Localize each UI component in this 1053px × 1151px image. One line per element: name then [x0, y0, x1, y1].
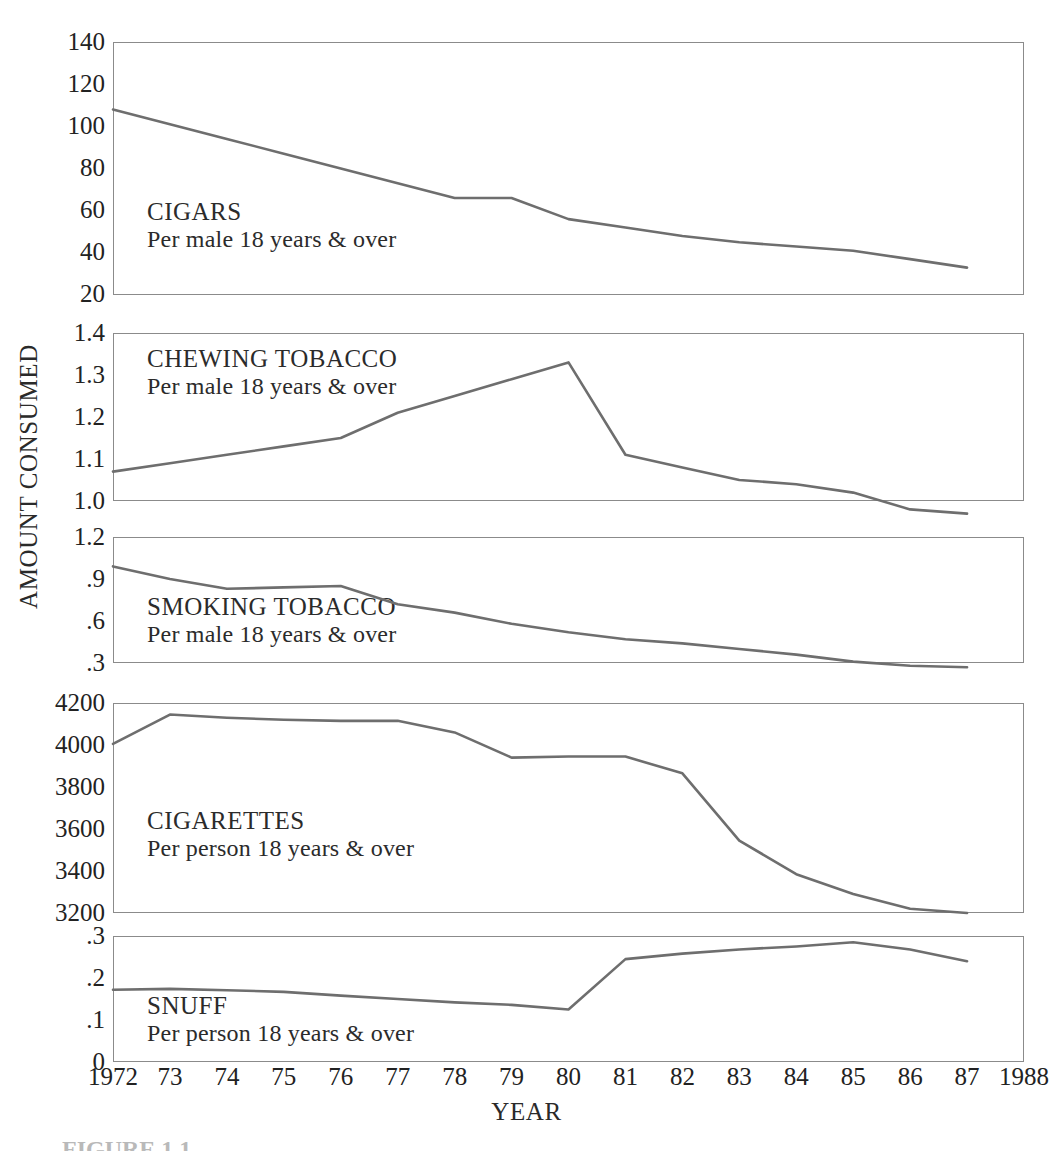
- y-axis-ticks-cigars: 140 120 100 80 60 40 20: [9, 42, 105, 295]
- x-tick: 83: [727, 1063, 752, 1091]
- series-line-smoking-tobacco: [113, 537, 1024, 663]
- y-tick: 1.0: [74, 488, 105, 513]
- x-tick: 1988: [999, 1063, 1049, 1091]
- figure-caption: FIGURE 1.1: [62, 1136, 1022, 1151]
- y-axis-ticks-smoking-tobacco: 1.2 .9 .6 .3: [9, 537, 105, 663]
- y-tick: 1.2: [74, 524, 105, 549]
- series-line-cigarettes: [113, 703, 1024, 913]
- x-tick: 86: [898, 1063, 923, 1091]
- y-tick: .3: [86, 923, 105, 948]
- x-tick: 77: [385, 1063, 410, 1091]
- y-axis-ticks-cigarettes: 4200 4000 3800 3600 3400 3200: [9, 703, 105, 913]
- y-tick: .6: [86, 608, 105, 633]
- x-tick: 78: [442, 1063, 467, 1091]
- panel-chewing-tobacco: 1.4 1.3 1.2 1.1 1.0 CHEWING TOBACCO Per …: [113, 333, 1024, 501]
- y-axis-ticks-snuff: .3 .2 .1 0: [9, 936, 105, 1062]
- x-tick: 84: [784, 1063, 809, 1091]
- panel-smoking-tobacco: 1.2 .9 .6 .3 SMOKING TOBACCO Per male 18…: [113, 537, 1024, 663]
- x-axis-title: YEAR: [0, 1098, 1053, 1126]
- y-tick: 80: [80, 155, 105, 180]
- series-line-chewing-tobacco: [113, 333, 1024, 501]
- y-tick: 120: [68, 71, 106, 96]
- y-tick: .2: [86, 965, 105, 990]
- y-tick: 40: [80, 239, 105, 264]
- x-tick: 1972: [88, 1063, 138, 1091]
- y-axis-ticks-chewing-tobacco: 1.4 1.3 1.2 1.1 1.0: [9, 333, 105, 501]
- y-tick: 3600: [55, 816, 105, 841]
- x-tick: 87: [955, 1063, 980, 1091]
- x-tick: 82: [670, 1063, 695, 1091]
- x-tick: 76: [328, 1063, 353, 1091]
- y-tick: .1: [86, 1007, 105, 1032]
- y-tick: .3: [86, 650, 105, 675]
- panel-cigarettes: 4200 4000 3800 3600 3400 3200 CIGARETTES…: [113, 703, 1024, 913]
- x-tick: 81: [613, 1063, 638, 1091]
- y-tick: 20: [80, 281, 105, 306]
- y-tick: 1.1: [74, 446, 105, 471]
- series-line-snuff: [113, 936, 1024, 1062]
- x-tick: 79: [499, 1063, 524, 1091]
- series-line-cigars: [113, 42, 1024, 295]
- y-tick: 1.4: [74, 320, 105, 345]
- y-tick: 3400: [55, 858, 105, 883]
- x-tick: 80: [556, 1063, 581, 1091]
- y-tick: 100: [68, 113, 106, 138]
- x-axis-ticks: 19727374757677787980818283848586871988: [0, 1063, 1053, 1097]
- panel-cigars: 140 120 100 80 60 40 20 CIGARS Per male …: [113, 42, 1024, 295]
- y-tick: 4200: [55, 690, 105, 715]
- y-tick: .9: [86, 566, 105, 591]
- y-tick: 4000: [55, 732, 105, 757]
- x-tick: 73: [157, 1063, 182, 1091]
- y-tick: 1.3: [74, 362, 105, 387]
- x-tick: 75: [271, 1063, 296, 1091]
- y-tick: 3800: [55, 774, 105, 799]
- y-tick: 60: [80, 197, 105, 222]
- x-tick: 85: [841, 1063, 866, 1091]
- y-tick: 1.2: [74, 404, 105, 429]
- figure-root: AMOUNT CONSUMED 140 120 100 80 60 40 20 …: [0, 0, 1053, 1151]
- x-tick: 74: [214, 1063, 239, 1091]
- panel-snuff: .3 .2 .1 0 SNUFF Per person 18 years & o…: [113, 936, 1024, 1062]
- y-tick: 140: [68, 29, 106, 54]
